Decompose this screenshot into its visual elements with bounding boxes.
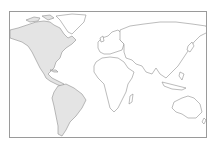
region-madagascar bbox=[129, 94, 133, 104]
region-asia bbox=[120, 22, 207, 78]
region-south-america bbox=[52, 84, 86, 136]
region-north-america bbox=[10, 21, 76, 86]
world-map bbox=[10, 12, 207, 138]
region-uk bbox=[100, 36, 104, 42]
region-new-zealand bbox=[202, 118, 206, 124]
map-frame bbox=[9, 11, 207, 138]
region-africa bbox=[94, 57, 134, 112]
region-arctic-islands bbox=[26, 15, 54, 22]
region-australia bbox=[172, 96, 202, 118]
